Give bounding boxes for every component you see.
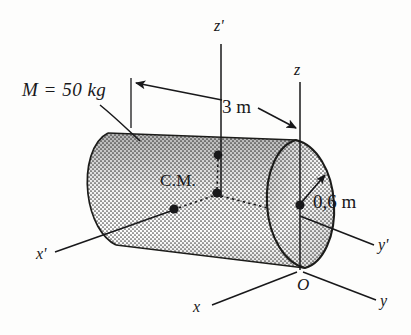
length-arrow-left bbox=[136, 83, 222, 100]
mass-label: M = 50 kg bbox=[22, 80, 106, 99]
physics-figure: M = 50 kg 3 m 0,6 m C.M. O z' x' y' z x … bbox=[0, 0, 411, 335]
radius-label: 0,6 m bbox=[313, 192, 356, 211]
axis-label-y-prime: y' bbox=[378, 237, 389, 253]
axis-label-x: x bbox=[193, 299, 200, 315]
x-prime-surface-point bbox=[169, 204, 178, 213]
cap-center-point bbox=[295, 200, 304, 209]
axis-label-y: y bbox=[380, 293, 387, 309]
z-prime-surface-point bbox=[214, 151, 223, 160]
center-of-mass-point bbox=[212, 188, 221, 197]
length-dimension bbox=[131, 78, 296, 128]
axis-label-x-prime: x' bbox=[36, 246, 47, 262]
axis-label-z-prime: z' bbox=[214, 18, 224, 34]
center-of-mass-label: C.M. bbox=[160, 172, 196, 189]
length-label: 3 m bbox=[222, 97, 251, 116]
origin-label: O bbox=[297, 276, 309, 293]
figure-canvas bbox=[0, 0, 411, 335]
cylinder-body bbox=[87, 133, 334, 268]
axis-line-y bbox=[303, 272, 376, 300]
length-arrow-right bbox=[258, 108, 296, 128]
axis-label-z: z bbox=[294, 62, 300, 78]
axis-line-x bbox=[212, 272, 297, 305]
